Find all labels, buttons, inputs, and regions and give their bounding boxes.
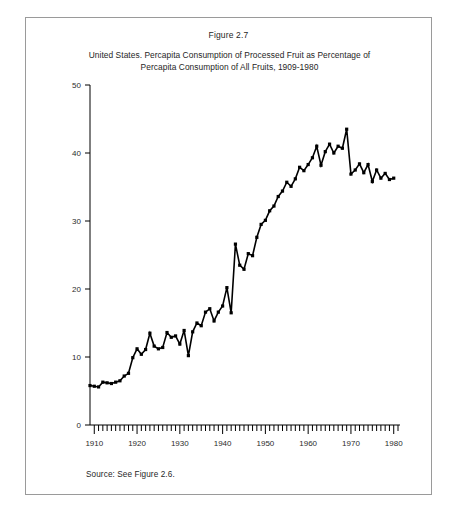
data-point-marker <box>140 353 143 356</box>
data-point-marker <box>247 252 250 255</box>
data-series-processed-fruit-share <box>88 128 395 389</box>
data-point-marker <box>217 311 220 314</box>
data-point-marker <box>148 332 151 335</box>
data-point-marker <box>311 156 314 159</box>
data-point-marker <box>354 168 357 171</box>
data-point-marker <box>242 268 245 271</box>
data-point-marker <box>88 384 91 387</box>
data-point-marker <box>307 163 310 166</box>
data-point-marker <box>157 347 160 350</box>
data-point-marker <box>277 195 280 198</box>
y-tick-label: 20 <box>72 285 81 294</box>
data-point-marker <box>375 168 378 171</box>
data-point-marker <box>255 236 258 239</box>
data-point-marker <box>366 163 369 166</box>
data-point-marker <box>204 311 207 314</box>
data-point-marker <box>371 180 374 183</box>
data-point-marker <box>272 204 275 207</box>
data-point-marker <box>349 172 352 175</box>
x-tick-label: 1930 <box>171 439 189 448</box>
y-tick-label: 10 <box>72 353 81 362</box>
data-point-marker <box>144 348 147 351</box>
data-point-marker <box>195 321 198 324</box>
data-point-marker <box>388 178 391 181</box>
y-axis: 01020304050 <box>72 81 90 430</box>
data-point-marker <box>392 177 395 180</box>
y-tick-label: 50 <box>72 81 81 90</box>
data-point-marker <box>221 304 224 307</box>
data-point-marker <box>114 381 117 384</box>
x-tick-label: 1960 <box>299 439 317 448</box>
data-point-marker <box>384 172 387 175</box>
x-tick-label: 1910 <box>85 439 103 448</box>
x-tick-label: 1940 <box>214 439 232 448</box>
data-point-marker <box>208 307 211 310</box>
data-point-marker <box>178 342 181 345</box>
data-point-marker <box>234 243 237 246</box>
data-point-marker <box>187 354 190 357</box>
data-point-marker <box>328 143 331 146</box>
data-point-marker <box>341 147 344 150</box>
x-tick-label: 1950 <box>256 439 274 448</box>
data-point-marker <box>358 162 361 165</box>
data-point-marker <box>238 264 241 267</box>
data-point-marker <box>123 374 126 377</box>
y-tick-label: 0 <box>77 421 82 430</box>
data-point-marker <box>289 185 292 188</box>
data-point-marker <box>260 223 263 226</box>
data-point-marker <box>165 331 168 334</box>
data-point-marker <box>345 128 348 131</box>
data-point-marker <box>324 150 327 153</box>
data-point-marker <box>264 219 267 222</box>
data-point-marker <box>170 336 173 339</box>
data-point-marker <box>127 372 130 375</box>
data-point-marker <box>285 181 288 184</box>
data-point-marker <box>110 382 113 385</box>
data-point-marker <box>281 189 284 192</box>
data-point-marker <box>131 356 134 359</box>
data-point-marker <box>379 177 382 180</box>
data-point-marker <box>315 145 318 148</box>
data-point-marker <box>319 164 322 167</box>
data-point-marker <box>294 177 297 180</box>
x-tick-label: 1970 <box>342 439 360 448</box>
data-point-marker <box>101 381 104 384</box>
source-note: Source: See Figure 2.6. <box>86 470 175 479</box>
x-tick-label: 1980 <box>385 439 403 448</box>
y-tick-label: 40 <box>72 149 81 158</box>
chart-plot-area: 01020304050 1910192019301940195019601970… <box>26 18 433 496</box>
data-point-marker <box>118 379 121 382</box>
data-point-marker <box>153 345 156 348</box>
line-chart-svg: 01020304050 1910192019301940195019601970… <box>26 18 433 496</box>
x-axis: 19101920193019401950196019701980 <box>85 425 403 448</box>
data-point-marker <box>230 311 233 314</box>
data-point-marker <box>135 347 138 350</box>
figure-frame: Figure 2.7 United States. Percapita Cons… <box>25 17 432 495</box>
data-point-marker <box>212 319 215 322</box>
data-point-marker <box>93 385 96 388</box>
data-point-marker <box>302 169 305 172</box>
data-point-marker <box>251 254 254 257</box>
data-point-marker <box>106 381 109 384</box>
data-point-marker <box>298 166 301 169</box>
x-tick-label: 1920 <box>128 439 146 448</box>
y-tick-label: 30 <box>72 217 81 226</box>
data-point-marker <box>200 324 203 327</box>
data-point-marker <box>332 151 335 154</box>
data-point-marker <box>174 334 177 337</box>
data-point-marker <box>337 145 340 148</box>
data-point-marker <box>225 286 228 289</box>
data-point-marker <box>97 385 100 388</box>
data-point-marker <box>183 329 186 332</box>
data-point-marker <box>362 171 365 174</box>
data-point-marker <box>268 209 271 212</box>
data-point-marker <box>161 346 164 349</box>
data-point-marker <box>191 330 194 333</box>
